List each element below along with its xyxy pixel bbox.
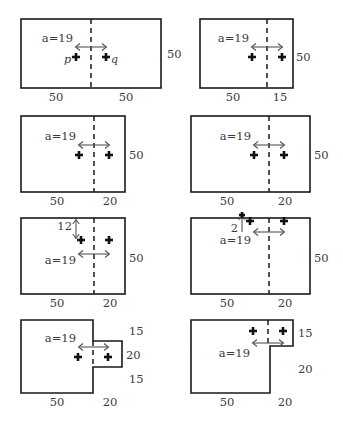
panel-5-bottom-dim-right: 20 bbox=[103, 296, 118, 310]
panel-1-bottom-dim-left: 50 bbox=[49, 90, 64, 104]
panel-8-right-dim-bottom: 20 bbox=[298, 362, 313, 376]
panel-4-bottom-dim-right: 20 bbox=[278, 194, 293, 208]
geometry-figure: a=19 p q 50 50 50 a=19 50 15 50 bbox=[0, 0, 343, 426]
panel-2-distance-label: a=19 bbox=[218, 31, 249, 45]
panel-6-right-dim: 50 bbox=[314, 251, 329, 265]
panel-7-right-dim-top: 15 bbox=[129, 324, 144, 338]
panel-3-bottom-dim-right: 20 bbox=[103, 194, 118, 208]
panel-2: a=19 50 15 50 bbox=[200, 19, 311, 104]
panel-1-point-label-q: q bbox=[111, 53, 118, 66]
panel-1-right-dim: 50 bbox=[167, 47, 182, 61]
panel-5-vertical-offset-label: 12 bbox=[57, 219, 72, 233]
panel-2-bottom-dim-right: 15 bbox=[273, 90, 288, 104]
panel-6-top-tick-marker bbox=[239, 212, 245, 218]
panel-8-distance-label: a=19 bbox=[219, 346, 250, 360]
panel-5: 12 a=19 50 20 50 bbox=[21, 218, 144, 310]
panel-6-bottom-dim-left: 50 bbox=[220, 296, 235, 310]
panel-3: a=19 50 20 50 bbox=[21, 116, 144, 208]
panel-5-distance-label: a=19 bbox=[45, 253, 76, 267]
panel-1-bottom-dim-right: 50 bbox=[119, 90, 134, 104]
panel-4-bottom-dim-left: 50 bbox=[220, 194, 235, 208]
panel-2-bottom-dim-left: 50 bbox=[226, 90, 241, 104]
panel-7: a=19 50 20 15 20 15 bbox=[21, 320, 144, 409]
panel-6: 2 a=19 50 20 50 bbox=[191, 212, 329, 310]
panel-6-distance-label: a=19 bbox=[220, 233, 251, 247]
panel-8-bottom-dim-right: 20 bbox=[278, 395, 293, 409]
panel-3-bottom-dim-left: 50 bbox=[50, 194, 65, 208]
panel-3-distance-label: a=19 bbox=[45, 129, 76, 143]
panel-8-right-dim-top: 15 bbox=[298, 326, 313, 340]
panel-5-right-dim: 50 bbox=[129, 251, 144, 265]
panel-1: a=19 p q 50 50 50 bbox=[21, 19, 182, 104]
panel-2-right-dim: 50 bbox=[296, 50, 311, 64]
panel-2-rectangle bbox=[200, 19, 293, 88]
panel-7-bottom-dim-right: 20 bbox=[103, 395, 118, 409]
panel-8: a=19 50 20 15 20 bbox=[191, 320, 313, 409]
panel-6-bottom-dim-right: 20 bbox=[278, 296, 293, 310]
panel-4: a=19 50 20 50 bbox=[191, 116, 329, 208]
panel-7-bottom-dim-left: 50 bbox=[50, 395, 65, 409]
panel-7-right-dim-mid: 20 bbox=[126, 348, 141, 362]
panel-1-distance-label: a=19 bbox=[42, 31, 73, 45]
panel-7-right-dim-bottom: 15 bbox=[129, 372, 144, 386]
panel-6-rectangle bbox=[191, 218, 310, 294]
panel-5-bottom-dim-left: 50 bbox=[50, 296, 65, 310]
panel-1-point-label-p: p bbox=[64, 53, 71, 66]
panel-7-distance-label: a=19 bbox=[45, 331, 76, 345]
figure-canvas: a=19 p q 50 50 50 a=19 50 15 50 bbox=[0, 0, 343, 426]
panel-4-right-dim: 50 bbox=[314, 148, 329, 162]
panel-8-bottom-dim-left: 50 bbox=[220, 395, 235, 409]
panel-3-right-dim: 50 bbox=[129, 148, 144, 162]
panel-4-distance-label: a=19 bbox=[220, 129, 251, 143]
